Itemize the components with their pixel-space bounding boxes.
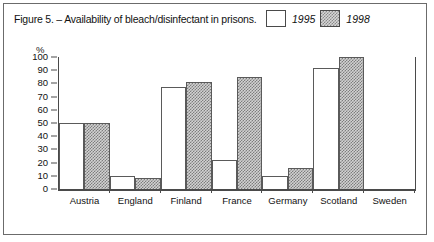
bar-scotland-1998	[339, 57, 364, 189]
bar-england-1995	[110, 176, 135, 189]
bar-group	[110, 57, 161, 189]
y-axis-tick-mark	[51, 70, 57, 71]
bar-finland-1995	[161, 87, 186, 189]
y-axis-tick-label: 90	[37, 65, 48, 75]
bar-germany-1995	[262, 176, 287, 189]
y-axis-tick-mark	[51, 136, 57, 137]
y-axis-tick-mark	[51, 149, 57, 150]
legend-swatch-1998-icon	[320, 10, 340, 27]
chart-legend: 1995 1998	[266, 10, 370, 27]
y-axis-tick-mark	[51, 83, 57, 84]
bar-group	[212, 57, 263, 189]
bar-france-1995	[212, 160, 237, 189]
bar-austria-1995	[59, 123, 84, 189]
y-axis-tick-mark	[51, 162, 57, 163]
y-axis-tick-label: 60	[37, 105, 48, 115]
y-axis-tick-label: 30	[37, 145, 48, 155]
bar-groups	[59, 57, 415, 189]
legend-label-1995: 1995	[292, 13, 315, 25]
legend-label-1998: 1998	[346, 13, 369, 25]
bar-scotland-1995	[313, 68, 338, 189]
x-axis-label-germany: Germany	[262, 195, 313, 206]
x-axis-label-england: England	[110, 195, 161, 206]
y-axis-tick-label: 100	[32, 52, 48, 62]
legend-swatch-1995-icon	[266, 10, 286, 27]
x-axis-label-scotland: Scotland	[313, 195, 364, 206]
y-axis-tick-label: 80	[37, 79, 48, 89]
legend-item-1995: 1995	[266, 10, 315, 27]
y-axis-tick-mark	[51, 109, 57, 110]
x-axis-label-france: France	[212, 195, 263, 206]
y-axis-tick-label: 70	[37, 92, 48, 102]
y-axis-tick-mark	[51, 123, 57, 124]
bar-group	[59, 57, 110, 189]
figure-frame: Figure 5. – Availability of bleach/disin…	[3, 3, 427, 235]
y-axis-tick-mark	[51, 175, 57, 176]
y-axis-tick-label: 20	[37, 158, 48, 168]
bar-england-1998	[135, 178, 160, 189]
x-axis-label-finland: Finland	[161, 195, 212, 206]
y-axis-tick-mark	[51, 57, 57, 58]
x-axis-labels: AustriaEnglandFinlandFranceGermanyScotla…	[59, 195, 415, 206]
bar-group	[313, 57, 364, 189]
y-axis-tick-mark	[51, 189, 57, 190]
y-axis-tick-mark	[51, 96, 57, 97]
bar-germany-1998	[288, 168, 313, 189]
y-axis-tick-label: 0	[43, 184, 48, 194]
bar-finland-1998	[186, 82, 211, 189]
x-axis-label-sweden: Sweden	[364, 195, 415, 206]
y-axis: 1009080706050403020100	[32, 57, 58, 189]
bar-group	[364, 57, 415, 189]
bar-group	[262, 57, 313, 189]
bar-austria-1998	[84, 123, 109, 189]
plot-area: 1009080706050403020100 AustriaEnglandFin…	[32, 57, 418, 207]
plot-right-border	[415, 57, 416, 190]
figure-title: Figure 5. – Availability of bleach/disin…	[14, 13, 256, 25]
y-axis-tick-label: 40	[37, 131, 48, 141]
bar-group	[161, 57, 212, 189]
legend-item-1998: 1998	[320, 10, 369, 27]
bar-france-1998	[237, 77, 262, 189]
y-axis-tick-label: 50	[37, 118, 48, 128]
y-axis-tick-label: 10	[37, 171, 48, 181]
x-axis-label-austria: Austria	[59, 195, 110, 206]
